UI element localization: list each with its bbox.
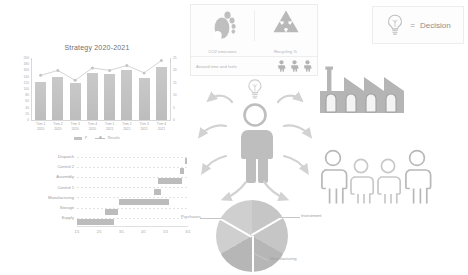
chart-y-tick: 60 — [25, 99, 29, 103]
process-gantt-chart: DispatchControl 2AssemblyControl 1Manufa… — [18, 152, 194, 252]
pie-label-purchases: Purchases — [181, 214, 201, 219]
chart-y2-tick: 25 — [173, 56, 177, 60]
gantt-track — [77, 208, 188, 209]
recycling-icon — [269, 9, 303, 41]
chart-bar — [35, 82, 46, 120]
gantt-track — [77, 197, 188, 198]
gantt-row: Supply — [18, 213, 194, 222]
chart-x-axis — [31, 120, 171, 121]
pie-leader-manufacturing — [254, 253, 269, 261]
chart-bar — [87, 73, 98, 120]
gantt-bar — [77, 219, 114, 225]
chart-bar — [104, 74, 115, 121]
lightbulb-icon — [385, 13, 405, 37]
center-arrows-and-person — [196, 78, 314, 204]
chart-y2-tick-labels: 2520151050 — [173, 58, 189, 120]
person-icon — [241, 105, 273, 184]
decision-legend-box: = Decision — [372, 6, 464, 44]
legend-item-bar: P — [74, 136, 87, 140]
chart-y-tick: 100 — [23, 87, 29, 91]
kpi-panel: CO2 emissions Recycling % Around time an… — [190, 4, 318, 76]
pie-callouts: Purchases Investment Manufacturing — [182, 196, 332, 275]
kpi-cell-recycling: Recycling % — [254, 5, 317, 57]
chart-title: Strategy 2020-2021 — [6, 44, 188, 51]
person-icon — [303, 60, 312, 72]
gantt-row: Assembly — [18, 172, 194, 181]
gantt-track — [77, 167, 188, 168]
gantt-x-tick: 3/1 — [119, 230, 124, 234]
kpi-bottom-row: Around time and fuels — [191, 56, 317, 75]
factory-icon — [318, 66, 434, 128]
factory-block — [318, 66, 434, 128]
gantt-row: Storage — [18, 203, 194, 212]
gantt-x-tick: 1/1 — [75, 230, 80, 234]
chart-y-tick: 40 — [25, 106, 29, 110]
chart-bar — [121, 70, 132, 120]
kpi-bottom-label: Around time and fuels — [196, 64, 237, 69]
lightbulb-icon — [249, 80, 261, 98]
chart-y2-tick: 15 — [173, 81, 177, 85]
chart-bar — [139, 78, 150, 120]
gantt-row-label: Control 2 — [18, 162, 74, 171]
central-decision-maker-group — [196, 78, 314, 204]
gantt-row-label: Dispatch — [18, 152, 74, 161]
chart-y2-tick: 10 — [173, 93, 177, 97]
gantt-track — [77, 157, 188, 158]
decision-equals-sign: = — [410, 21, 415, 30]
chart-y-tick: 120 — [23, 81, 29, 85]
person-icon — [290, 60, 299, 72]
legend-bar-label: P — [85, 136, 87, 140]
legend-line-label: Results — [108, 136, 120, 140]
pie-leader-purchases — [200, 218, 224, 219]
kpi-label-recycling: Recycling % — [254, 49, 317, 54]
gantt-x-tick: 2/1 — [97, 230, 102, 234]
chart-y-tick: 160 — [23, 68, 29, 72]
legend-line-swatch — [95, 138, 105, 139]
chart-y-tick: 180 — [23, 62, 29, 66]
chart-y-tick-labels: 200180160140120100806040200 — [10, 58, 29, 120]
gantt-x-tick: 4/1 — [141, 230, 146, 234]
gantt-x-axis — [77, 226, 188, 227]
gantt-row-label: Manufacturing — [18, 193, 74, 202]
gantt-row: Control 2 — [18, 162, 194, 171]
gantt-row-label: Storage — [18, 203, 74, 212]
chart-y2-tick: 5 — [173, 106, 175, 110]
chart-y2-axis — [170, 58, 171, 120]
kpi-top-row: CO2 emissions Recycling % — [191, 5, 317, 57]
legend-bar-swatch — [74, 137, 82, 140]
gantt-x-tick: 5/1 — [163, 230, 168, 234]
gantt-row: Control 1 — [18, 183, 194, 192]
chart-y-tick: 200 — [23, 56, 29, 60]
pie-label-manufacturing: Manufacturing — [270, 256, 297, 261]
strategy-bar-line-chart: Strategy 2020-2021 200180160140120100806… — [6, 44, 188, 148]
footprint-icon — [210, 9, 236, 41]
gantt-row-label: Control 1 — [18, 183, 74, 192]
kpi-label-co2: CO2 emissions — [191, 49, 254, 54]
gantt-row-label: Assembly — [18, 172, 74, 181]
gantt-row-label: Supply — [18, 213, 74, 222]
gantt-row: Dispatch — [18, 152, 194, 161]
decision-label: Decision — [420, 21, 451, 30]
chart-y2-tick: 20 — [173, 68, 177, 72]
gantt-track — [77, 177, 188, 178]
infographic-canvas: Strategy 2020-2021 200180160140120100806… — [0, 0, 468, 275]
legend-item-line: Results — [95, 136, 119, 140]
chart-y-tick: 80 — [25, 93, 29, 97]
kpi-person-icons — [277, 60, 312, 72]
gantt-row: Manufacturing — [18, 193, 194, 202]
person-icon — [277, 60, 286, 72]
people-group-block — [318, 148, 444, 204]
chart-bar — [52, 77, 63, 120]
chart-y-tick: 140 — [23, 75, 29, 79]
chart-legend: P Results — [6, 136, 188, 140]
kpi-cell-co2: CO2 emissions — [191, 5, 254, 57]
pie-label-investment: Investment — [301, 213, 321, 218]
chart-x-tick: Trim 42021 — [149, 122, 173, 131]
chart-bar — [156, 67, 167, 120]
gantt-track — [77, 187, 188, 188]
pie-leader-investment — [278, 217, 300, 218]
gantt-track — [77, 218, 188, 219]
people-group-icon — [318, 148, 444, 204]
chart-plot-area — [32, 58, 170, 120]
chart-bar — [70, 83, 81, 120]
